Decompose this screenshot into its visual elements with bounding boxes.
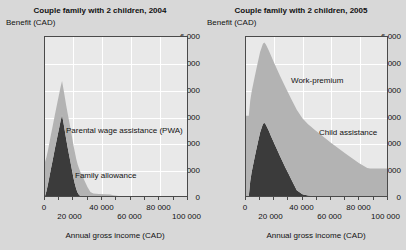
x-tick-label: 60 000 — [108, 212, 151, 221]
x-tick-mark — [72, 197, 73, 200]
x-tick-label: 60 000 — [308, 212, 351, 221]
x-tick-label: 20 000 — [249, 212, 292, 221]
x-tick-mark — [87, 197, 88, 200]
x-tick-mark — [259, 197, 260, 200]
x-axis-title-2005: Annual gross income (CAD) — [231, 231, 401, 240]
chart-title-2005: Couple family with 2 children, 2005 — [201, 6, 401, 16]
chart-panel-2005: Couple family with 2 children, 2005 Bene… — [201, 0, 401, 250]
series-annotation-child-assistance: Child assistance — [319, 128, 377, 137]
series-annotation-pwa: Parental wage assistance (PWA) — [66, 126, 183, 135]
x-tick-mark — [58, 197, 59, 200]
x-tick-mark — [173, 197, 174, 200]
x-tick-mark — [187, 197, 188, 200]
area-series-svg-2005 — [246, 37, 387, 196]
x-tick-mark — [44, 197, 45, 200]
x-tick-mark — [130, 197, 131, 200]
series-annotation-work-premium: Work-premium — [291, 76, 343, 85]
x-tick-mark — [358, 197, 359, 200]
stacked-area-2005 — [246, 37, 387, 196]
x-tick-label: 20 000 — [48, 212, 91, 221]
x-tick-label: 40 000 — [280, 203, 323, 212]
x-tick-mark — [330, 197, 331, 200]
x-tick-mark — [344, 197, 345, 200]
x-tick-mark — [373, 197, 374, 200]
x-tick-mark — [245, 197, 246, 200]
chart-panel-2004: Couple family with 2 children, 2004 Bene… — [0, 0, 200, 250]
x-tick-label: 0 — [235, 203, 255, 212]
x-tick-mark — [115, 197, 116, 200]
x-tick-mark — [316, 197, 317, 200]
x-tick-label: 0 — [34, 203, 54, 212]
x-tick-label: 80 000 — [337, 203, 380, 212]
x-tick-mark — [387, 197, 388, 200]
y-axis-title-2005: Benefit (CAD) — [207, 18, 256, 28]
x-tick-mark — [302, 197, 303, 200]
chart-title-2004: Couple family with 2 children, 2004 — [0, 6, 200, 16]
x-tick-label: 40 000 — [80, 203, 123, 212]
x-axis-title-2004: Annual gross income (CAD) — [30, 231, 200, 240]
series-annotation-family-allowance: Family allowance — [75, 171, 136, 180]
x-tick-mark — [287, 197, 288, 200]
x-tick-mark — [158, 197, 159, 200]
x-tick-label: 100 000 — [362, 212, 406, 221]
x-tick-mark — [144, 197, 145, 200]
y-axis-title-2004: Benefit (CAD) — [6, 18, 55, 28]
x-tick-mark — [101, 197, 102, 200]
x-tick-mark — [273, 197, 274, 200]
plot-area-2005 — [245, 36, 388, 197]
x-tick-label: 80 000 — [137, 203, 180, 212]
